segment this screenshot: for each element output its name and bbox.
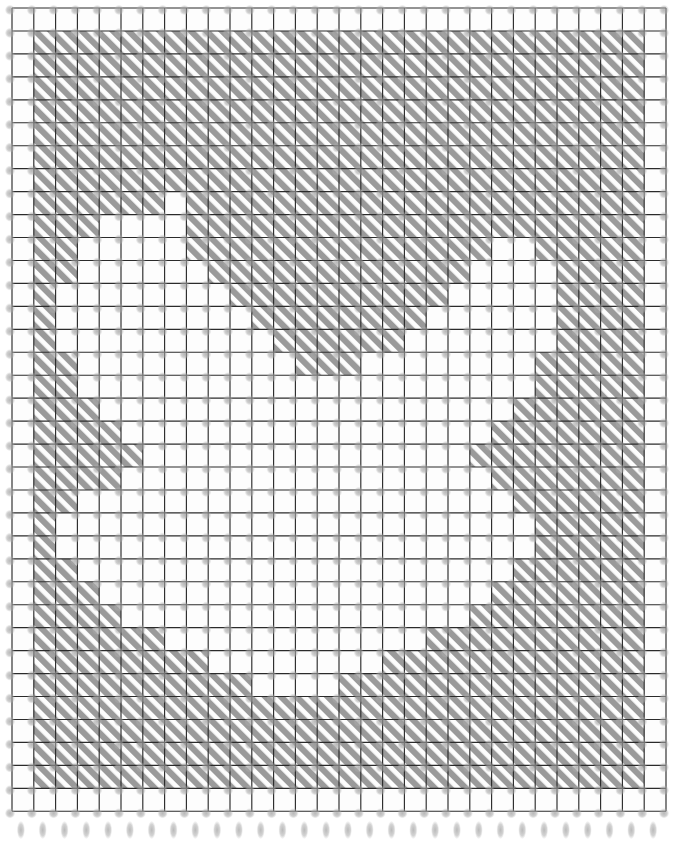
vertex-dot (310, 808, 320, 818)
vertex-dot (659, 28, 669, 38)
vertex-dot (659, 762, 669, 772)
vertex-dot (506, 762, 516, 772)
vertex-dot (550, 257, 560, 267)
vertex-dot (70, 143, 80, 153)
vertex-dot (550, 739, 560, 749)
vertex-dot (550, 212, 560, 222)
vertex-dot (223, 487, 233, 497)
vertex-dot (354, 648, 364, 658)
vertex-dot (267, 510, 277, 520)
vertex-dot (550, 120, 560, 130)
vertex-dot (528, 326, 538, 336)
vertex-dot (5, 51, 15, 61)
vertex-dot (419, 441, 429, 451)
vertex-dot (463, 74, 473, 84)
vertex-dot (376, 671, 386, 681)
vertex-dot (332, 212, 342, 222)
vertex-dot (419, 556, 429, 566)
vertex-dot (245, 143, 255, 153)
vertex-dot (310, 533, 320, 543)
bottom-axis-dot (627, 821, 635, 839)
vertex-dot (441, 303, 451, 313)
bottom-axis-dot (126, 821, 134, 839)
vertex-dot (506, 51, 516, 61)
vertex-dot (158, 739, 168, 749)
vertex-dot (485, 166, 495, 176)
vertex-dot (136, 51, 146, 61)
grid-canvas (0, 0, 677, 843)
vertex-dot (245, 257, 255, 267)
vertex-dot (376, 372, 386, 382)
vertex-dot (245, 326, 255, 336)
vertex-dot (136, 694, 146, 704)
vertex-dot (332, 51, 342, 61)
vertex-dot (397, 74, 407, 84)
vertex-dot (572, 762, 582, 772)
vertex-dot (223, 326, 233, 336)
vertex-dot (594, 602, 604, 612)
vertex-dot (5, 326, 15, 336)
vertex-dot (332, 166, 342, 176)
vertex-dot (659, 349, 669, 359)
vertex-dot (49, 189, 59, 199)
vertex-dot (245, 303, 255, 313)
vertex-dot (354, 74, 364, 84)
bottom-axis-dot (453, 821, 461, 839)
vertex-dot (594, 303, 604, 313)
vertex-dot (572, 120, 582, 130)
vertex-dot (550, 533, 560, 543)
vertex-dot (463, 326, 473, 336)
vertex-dot (376, 556, 386, 566)
vertex-dot (179, 166, 189, 176)
vertex-dot (5, 579, 15, 589)
vertex-dot (223, 235, 233, 245)
vertex-dot (463, 762, 473, 772)
vertex-dot (419, 97, 429, 107)
vertex-dot (354, 28, 364, 38)
vertex-dot (441, 5, 451, 15)
vertex-dot (136, 533, 146, 543)
vertex-dot (397, 280, 407, 290)
vertex-dot (354, 625, 364, 635)
vertex-dot (419, 303, 429, 313)
vertex-dot (310, 212, 320, 222)
bottom-axis-dot (649, 821, 657, 839)
vertex-dot (245, 694, 255, 704)
vertex-dot (201, 166, 211, 176)
vertex-dot (572, 74, 582, 84)
vertex-dot (114, 257, 124, 267)
vertex-dot (158, 166, 168, 176)
vertex-dot (245, 464, 255, 474)
vertex-dot (397, 257, 407, 267)
vertex-dot (659, 487, 669, 497)
vertex-dot (594, 533, 604, 543)
vertex-dot (485, 556, 495, 566)
vertex-dot (419, 625, 429, 635)
vertex-dot (528, 51, 538, 61)
vertex-dot (376, 510, 386, 520)
vertex-dot (506, 303, 516, 313)
vertex-dot (179, 418, 189, 428)
vertex-dot (288, 303, 298, 313)
vertex-dot (441, 51, 451, 61)
vertex-dot (376, 326, 386, 336)
vertex-dot (114, 189, 124, 199)
vertex-dot (550, 280, 560, 290)
vertex-dot (441, 510, 451, 520)
vertex-dot (485, 533, 495, 543)
vertex-dot (332, 510, 342, 520)
vertex-dot (158, 464, 168, 474)
vertex-dot (572, 51, 582, 61)
vertex-dot (158, 785, 168, 795)
vertex-dot (376, 464, 386, 474)
vertex-dot (506, 694, 516, 704)
vertex-dot (92, 212, 102, 222)
vertex-dot (223, 28, 233, 38)
vertex-dot (5, 212, 15, 222)
vertex-dot (332, 716, 342, 726)
vertex-dot (485, 143, 495, 153)
vertex-dot (485, 189, 495, 199)
vertex-dot (92, 762, 102, 772)
vertex-dot (158, 418, 168, 428)
vertex-dot (550, 166, 560, 176)
